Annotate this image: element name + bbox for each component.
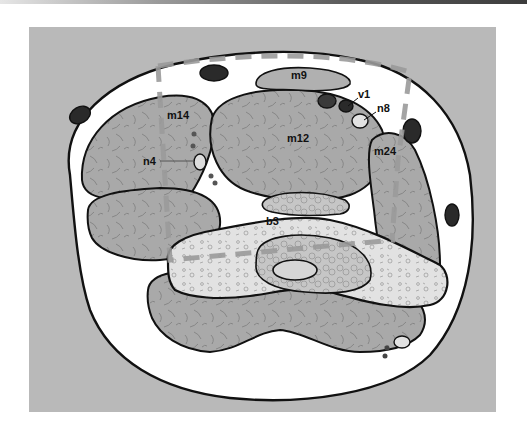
label-b3: b3 bbox=[266, 215, 279, 227]
vessel-right bbox=[403, 119, 421, 143]
label-m24: m24 bbox=[374, 145, 397, 157]
nerve-n4 bbox=[194, 154, 206, 170]
nerve-bottom-right bbox=[394, 336, 410, 348]
label-n4: n4 bbox=[143, 155, 157, 167]
bone-core bbox=[273, 260, 317, 280]
cross-section-diagram: m9 v1 n8 m14 m12 m24 n4 b3 bbox=[0, 0, 527, 436]
label-m12: m12 bbox=[287, 132, 309, 144]
vessel-v1 bbox=[339, 100, 353, 112]
vessel-small-2 bbox=[191, 144, 196, 149]
vessel-top-left bbox=[200, 65, 228, 81]
vessel-top-mid bbox=[318, 94, 336, 108]
label-n8: n8 bbox=[377, 102, 390, 114]
nerve-n8 bbox=[352, 114, 368, 128]
vessel-small-3 bbox=[209, 174, 214, 179]
label-m9: m9 bbox=[291, 69, 307, 81]
vessel-small-1 bbox=[192, 132, 197, 137]
label-m14: m14 bbox=[167, 109, 190, 121]
vessel-small-6 bbox=[383, 354, 388, 359]
vessel-small-4 bbox=[213, 181, 218, 186]
vessel-right-lower bbox=[445, 204, 459, 226]
vessel-small-5 bbox=[385, 346, 390, 351]
label-v1: v1 bbox=[358, 88, 370, 100]
muscle-m12 bbox=[210, 90, 385, 201]
